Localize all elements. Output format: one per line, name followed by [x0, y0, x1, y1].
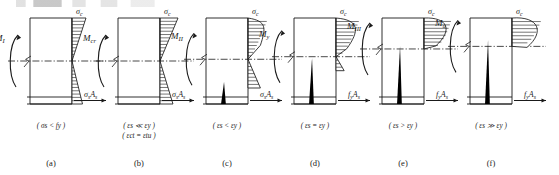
condition-label: ( εs > εy ) [389, 122, 418, 130]
panel-e: σcfyAsMIII( εs > εy )(e) [346, 7, 458, 168]
top-stress-label: σc [252, 7, 259, 17]
top-stress-label: σc [76, 7, 83, 17]
panel-d: σcfyAsMy( εs = εy )(d) [258, 7, 370, 168]
tension-force-arrowhead [190, 99, 195, 103]
panel-a: σcσsAsMI( σs < fy )(a) [0, 7, 106, 168]
condition-label: ( εs < εy ) [213, 122, 242, 130]
beam-section-outline [294, 18, 336, 104]
panel-caption: (c) [222, 158, 232, 168]
tension-force-arrowhead [366, 99, 371, 103]
top-text-fragment [16, 0, 166, 7]
moment-label: MIII [346, 21, 362, 32]
moment-label: Mcr [82, 33, 96, 44]
condition-label: ( εs ≪ εy ) [123, 122, 155, 130]
condition-label: ( εct = εtu ) [122, 132, 156, 140]
beam-section-outline [382, 18, 424, 104]
condition-label: ( εs = εy ) [301, 122, 330, 130]
moment-label: Mu [434, 18, 447, 29]
tension-force-arrowhead [542, 99, 547, 103]
figure-container: σcσsAsMI( σs < fy )(a)σcσsAsMcr( εs ≪ εy… [0, 0, 559, 175]
panel-caption: (a) [46, 158, 56, 168]
beam-section-outline [470, 18, 512, 104]
top-stress-label: σc [164, 7, 171, 17]
compression-stress-block [512, 18, 541, 48]
beam-stress-stage-diagram: σcσsAsMI( σs < fy )(a)σcσsAsMcr( εs ≪ εy… [0, 0, 559, 175]
condition-label: ( σs < fy ) [37, 122, 66, 130]
beam-section-outline [206, 18, 248, 104]
panel-caption: (f) [487, 158, 496, 168]
condition-label: ( εs ≫ εy ) [475, 122, 507, 130]
tension-stress-block [336, 57, 344, 71]
tension-force-label: σsAs [260, 90, 274, 100]
tension-stress-block [72, 61, 83, 104]
top-stress-label: σc [340, 7, 347, 17]
tension-force-label: fyAs [524, 90, 537, 100]
tension-force-label: fyAs [436, 90, 449, 100]
moment-label: MII [170, 31, 184, 42]
tension-force-label: σsAs [172, 90, 186, 100]
tension-force-arrowhead [278, 99, 283, 103]
tension-force-label: σsAs [84, 90, 98, 100]
tension-force-arrowhead [454, 99, 459, 103]
panel-caption: (d) [310, 158, 320, 168]
panel-caption: (e) [398, 158, 408, 168]
tension-force-label: fyAs [348, 90, 361, 100]
panel-caption: (b) [134, 158, 144, 168]
tension-stress-block [248, 59, 260, 88]
moment-label: My [258, 29, 270, 40]
top-stress-label: σc [428, 7, 435, 17]
top-stress-label: σc [516, 7, 523, 17]
panel-f: σcfyAsMu( εs ≫ εy )(f) [434, 7, 546, 168]
moment-label: MI [0, 33, 6, 44]
tension-force-arrowhead [102, 99, 107, 103]
